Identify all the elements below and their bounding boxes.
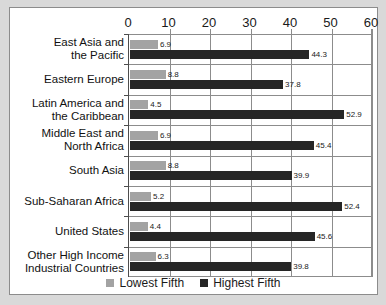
x-axis-tick-0: 0 <box>124 15 131 30</box>
category-label: United States <box>55 225 124 238</box>
row-tick <box>124 95 129 96</box>
bar-highest-fifth <box>130 232 315 241</box>
category-label: Eastern Europe <box>44 73 124 86</box>
x-axis-tick-30: 30 <box>242 15 256 30</box>
bar-value-label: 6.9 <box>160 41 171 49</box>
category-label: South Asia <box>69 164 124 177</box>
plot-area: 6.944.38.837.84.552.96.945.48.839.95.252… <box>128 34 372 277</box>
legend-swatch-icon <box>200 279 208 287</box>
bar-highest-fifth <box>130 50 309 59</box>
legend-label: Highest Fifth <box>213 276 280 290</box>
category-label: Latin America and the Caribbean <box>32 97 124 123</box>
bar-value-label: 52.9 <box>346 111 362 119</box>
row-tick <box>124 156 129 157</box>
bar-highest-fifth <box>130 202 342 211</box>
x-axis-tick-labels: 0102030405060 <box>10 15 379 33</box>
row-separator <box>129 156 372 157</box>
bar-lowest-fifth <box>130 161 166 170</box>
row-tick <box>124 64 129 65</box>
bar-highest-fifth <box>130 110 344 119</box>
legend-label: Lowest Fifth <box>119 276 184 290</box>
bar-highest-fifth <box>130 141 314 150</box>
bar-value-label: 37.8 <box>285 81 301 89</box>
row-separator <box>129 95 372 96</box>
x-axis-tick-20: 20 <box>202 15 216 30</box>
bar-value-label: 8.8 <box>168 71 179 79</box>
category-label: East Asia and the Pacific <box>54 36 124 62</box>
bar-value-label: 39.9 <box>294 172 310 180</box>
bar-value-label: 4.4 <box>150 223 161 231</box>
row-separator <box>129 64 372 65</box>
chart-legend: Lowest FifthHighest Fifth <box>10 276 377 290</box>
bar-lowest-fifth <box>130 100 148 109</box>
bar-value-label: 39.8 <box>293 263 309 271</box>
bar-lowest-fifth <box>130 70 166 79</box>
bar-value-label: 44.3 <box>311 51 327 59</box>
x-axis-tick-40: 40 <box>283 15 297 30</box>
category-label-column: East Asia and the PacificEastern EuropeL… <box>10 34 128 277</box>
bar-lowest-fifth <box>130 40 158 49</box>
bar-lowest-fifth <box>130 222 148 231</box>
x-axis-tick-60: 60 <box>364 15 378 30</box>
row-separator <box>129 186 372 187</box>
category-label: Sub-Saharan Africa <box>24 195 124 208</box>
bar-lowest-fifth <box>130 131 158 140</box>
bar-lowest-fifth <box>130 252 156 261</box>
chart-screenshot: 0102030405060 East Asia and the PacificE… <box>0 0 386 305</box>
row-separator <box>129 247 372 248</box>
row-tick <box>124 186 129 187</box>
row-tick <box>124 247 129 248</box>
row-tick <box>124 216 129 217</box>
x-axis-tick-10: 10 <box>161 15 175 30</box>
x-axis-tick-50: 50 <box>323 15 337 30</box>
bar-lowest-fifth <box>130 192 151 201</box>
bar-value-label: 52.4 <box>344 203 360 211</box>
row-separator <box>129 216 372 217</box>
bar-highest-fifth <box>130 262 291 271</box>
bar-value-label: 5.2 <box>153 193 164 201</box>
row-tick <box>124 125 129 126</box>
row-tick <box>124 34 129 35</box>
category-label: Middle East and North Africa <box>42 127 124 153</box>
bar-value-label: 6.3 <box>158 253 169 261</box>
legend-swatch-icon <box>106 279 114 287</box>
legend-item-highest-fifth[interactable]: Highest Fifth <box>200 276 280 290</box>
bar-value-label: 45.6 <box>317 233 333 241</box>
bar-value-label: 45.4 <box>316 142 332 150</box>
row-separator <box>129 34 372 35</box>
chart-frame: 0102030405060 East Asia and the PacificE… <box>9 7 378 295</box>
bar-highest-fifth <box>130 171 292 180</box>
bar-highest-fifth <box>130 80 283 89</box>
legend-item-lowest-fifth[interactable]: Lowest Fifth <box>106 276 184 290</box>
bar-value-label: 6.9 <box>160 132 171 140</box>
category-label: Other High Income Industrial Countries <box>25 249 124 275</box>
gridline-60 <box>372 29 373 277</box>
row-separator <box>129 125 372 126</box>
bar-value-label: 4.5 <box>150 101 161 109</box>
bar-value-label: 8.8 <box>168 162 179 170</box>
